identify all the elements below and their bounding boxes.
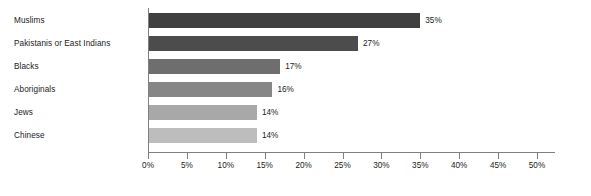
category-label: Chinese	[14, 128, 45, 143]
category-label: Jews	[14, 105, 33, 120]
x-axis-tick	[148, 153, 149, 159]
category-label: Aboriginals	[14, 82, 55, 97]
bar	[148, 59, 280, 74]
x-axis-tick	[187, 153, 188, 159]
x-axis-tick	[498, 153, 499, 159]
category-label: Blacks	[14, 59, 39, 74]
bar	[148, 36, 358, 51]
plot-area: 35%27%17%16%14%14%	[148, 0, 591, 152]
category-label-column: MuslimsPakistanis or East IndiansBlacksA…	[0, 0, 142, 152]
x-axis-tick-label: 5%	[181, 161, 193, 170]
x-axis-tick-label: 35%	[412, 161, 428, 170]
bar-value-label: 27%	[363, 36, 379, 51]
bar-value-label: 16%	[277, 82, 293, 97]
bar	[148, 128, 257, 143]
x-axis-tick	[304, 153, 305, 159]
x-axis-tick-label: 0%	[142, 161, 154, 170]
x-axis-tick-label: 30%	[373, 161, 389, 170]
bar	[148, 82, 272, 97]
bar	[148, 105, 257, 120]
category-label: Pakistanis or East Indians	[14, 36, 110, 51]
bar-value-label: 17%	[285, 59, 301, 74]
category-label: Muslims	[14, 13, 45, 28]
bar	[148, 13, 420, 28]
bar-value-label: 14%	[262, 128, 278, 143]
y-axis-line	[148, 8, 149, 153]
x-axis-tick	[537, 153, 538, 159]
x-axis-tick-label: 50%	[529, 161, 545, 170]
x-axis-tick-label: 45%	[490, 161, 506, 170]
x-axis-tick-label: 40%	[451, 161, 467, 170]
x-axis-tick	[381, 153, 382, 159]
x-axis-tick-label: 10%	[218, 161, 234, 170]
bar-value-label: 35%	[425, 13, 441, 28]
x-axis-tick	[226, 153, 227, 159]
bar-chart: MuslimsPakistanis or East IndiansBlacksA…	[0, 0, 591, 196]
x-axis-tick-label: 15%	[256, 161, 272, 170]
x-axis-tick-label: 25%	[334, 161, 350, 170]
x-axis-tick	[265, 153, 266, 159]
x-axis-line	[148, 152, 555, 153]
x-axis-tick	[459, 153, 460, 159]
bar-value-label: 14%	[262, 105, 278, 120]
x-axis-tick-label: 20%	[295, 161, 311, 170]
x-axis-tick	[420, 153, 421, 159]
x-axis-tick	[343, 153, 344, 159]
